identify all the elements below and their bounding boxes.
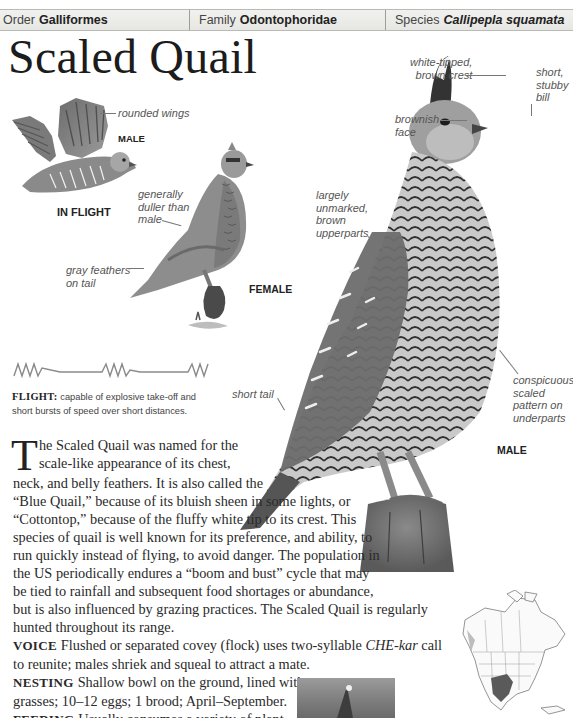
order-cell: Order Galliformes <box>0 10 189 30</box>
feeding-label: FEEDING <box>13 712 74 718</box>
leader-line <box>441 120 467 121</box>
label-underparts: conspicuous scaled pattern on underparts <box>513 374 573 424</box>
label-rounded-wings: rounded wings <box>118 107 190 120</box>
family-cell: Family Odontophoridae <box>189 10 385 30</box>
family-label: Family <box>199 13 236 27</box>
family-value: Odontophoridae <box>240 13 337 27</box>
flight-label: FLIGHT: <box>12 391 58 402</box>
voice-section: VOICEFlushed or separated covey (flock) … <box>13 636 353 655</box>
page-title: Scaled Quail <box>8 33 257 81</box>
label-upperparts: largely unmarked, brown upperparts <box>316 189 369 239</box>
taxonomy-header: Order Galliformes Family Odontophoridae … <box>0 9 573 31</box>
leader-line <box>128 268 144 269</box>
flight-caption: FLIGHT: capable of explosive take-off an… <box>12 390 247 418</box>
label-crest: white-tipped, brown crest <box>410 56 472 81</box>
order-value: Galliformes <box>39 13 108 27</box>
leader-line <box>466 75 506 76</box>
zigzag-flight-pattern-icon <box>12 358 212 380</box>
drop-cap: T <box>11 438 38 474</box>
leader-line <box>100 113 116 114</box>
label-bill: short, stubby bill <box>536 66 568 104</box>
label-male: MALE <box>497 444 527 456</box>
female-bird-illustration <box>128 140 258 335</box>
label-gray-tail: gray feathers on tail <box>66 264 130 289</box>
species-description: T he Scaled Quail was named for the scal… <box>13 436 353 718</box>
species-label: Species <box>395 13 439 27</box>
order-label: Order <box>3 13 35 27</box>
nesting-label: NESTING <box>13 675 74 690</box>
quail-photo-silhouette <box>297 678 395 718</box>
habitat-photo <box>297 678 395 718</box>
species-cell: Species Callipepla squamata <box>385 10 573 30</box>
label-in-flight: IN FLIGHT <box>57 206 111 218</box>
range-map <box>445 590 573 718</box>
voice-label: VOICE <box>13 638 57 653</box>
species-value: Callipepla squamata <box>443 13 564 27</box>
leader-line <box>531 104 532 116</box>
label-face: brownish face <box>395 113 439 138</box>
